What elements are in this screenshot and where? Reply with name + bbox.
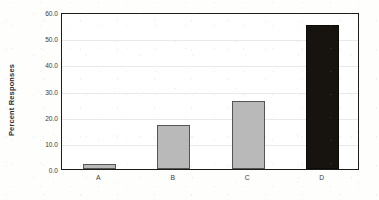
y-axis-tick-labels: 0.010.020.030.040.050.060.0 — [26, 13, 58, 170]
y-tick-label: 40.0 — [26, 62, 58, 69]
y-tick-label: 60.0 — [26, 10, 58, 17]
x-tick-label: B — [170, 174, 175, 181]
x-tick-label: D — [319, 174, 324, 181]
plot-area — [61, 13, 359, 170]
y-tick-label: 0.0 — [26, 167, 58, 174]
y-axis-title: Percent Responses — [0, 0, 22, 200]
x-tick-label: A — [96, 174, 101, 181]
bar-d — [306, 25, 339, 169]
y-tick-label: 20.0 — [26, 114, 58, 121]
x-tick-label: C — [245, 174, 250, 181]
x-axis-tick-labels: ABCD — [61, 174, 359, 190]
bar-c — [232, 101, 265, 169]
bar-b — [157, 125, 190, 169]
bar-chart-figure: Percent Responses 0.010.020.030.040.050.… — [0, 0, 379, 200]
bars-layer — [62, 14, 358, 169]
y-tick-label: 50.0 — [26, 36, 58, 43]
y-tick-label: 30.0 — [26, 88, 58, 95]
y-tick-label: 10.0 — [26, 140, 58, 147]
bar-a — [83, 164, 116, 169]
